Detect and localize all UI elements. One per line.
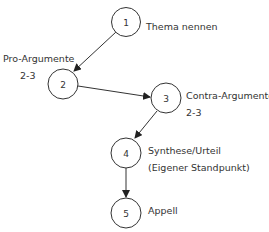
node-4: 4 <box>111 138 141 168</box>
node-5: 5 <box>111 198 141 228</box>
svg-text:4: 4 <box>123 149 129 159</box>
node-2-sublabel: 2-3 <box>20 70 36 82</box>
svg-text:2: 2 <box>60 80 66 90</box>
svg-text:1: 1 <box>123 18 129 28</box>
node-2: 2 <box>48 69 78 99</box>
node-3-label: Contra-Argumente <box>186 90 269 102</box>
node-3: 3 <box>151 83 181 113</box>
node-2-label: Pro-Argumente <box>3 53 74 65</box>
node-4-label: Synthese/Urteil <box>148 145 221 157</box>
svg-text:5: 5 <box>123 209 129 219</box>
edge-3-4 <box>135 111 157 138</box>
svg-text:3: 3 <box>163 94 169 104</box>
node-1: 1 <box>112 8 141 37</box>
flow-diagram: 1 2 3 4 5 <box>0 0 269 232</box>
node-4-sublabel: (Eigener Standpunkt) <box>148 162 250 174</box>
node-1-label: Thema nennen <box>146 21 218 33</box>
edge-2-3 <box>78 86 150 97</box>
node-5-label: Appell <box>148 205 178 217</box>
node-3-sublabel: 2-3 <box>186 107 202 119</box>
edge-1-2 <box>74 32 116 71</box>
